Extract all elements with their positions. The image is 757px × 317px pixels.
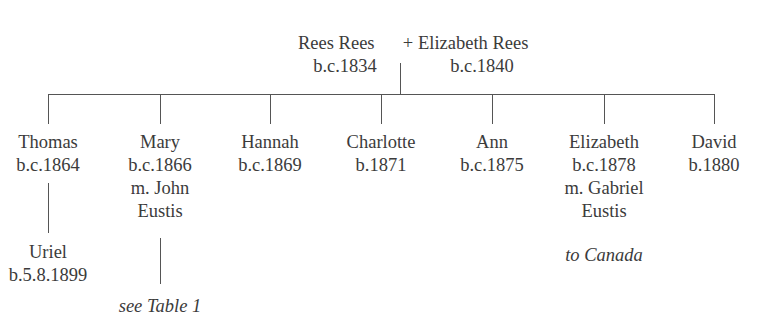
drop-elizabeth [604,94,605,124]
see-table-link: see Table 1 [100,295,220,317]
child-elizabeth-name: Elizabeth [549,131,659,154]
father-born: b.c.1834 [300,55,390,78]
drop-hannah [270,94,271,124]
child-hannah-born: b.c.1869 [220,154,320,177]
child-mary-spouse: Eustis [110,200,210,223]
child-thomas-born: b.c.1864 [0,154,98,177]
drop-ann [492,94,493,124]
child-thomas-name: Thomas [0,131,98,154]
child-david-born: b.1880 [674,154,754,177]
drop-mary [160,94,161,124]
child-mary-born: b.c.1866 [110,154,210,177]
drop-thomas [48,94,49,124]
drop-charlotte [381,94,382,124]
child-david-name: David [674,131,754,154]
father-name: Rees Rees [298,32,410,55]
child-charlotte-name: Charlotte [331,131,431,154]
parent-descent-line [400,63,401,95]
child-elizabeth-spouse: Eustis [549,200,659,223]
child-elizabeth-note: to Canada [544,244,664,267]
mother-born: b.c.1840 [437,55,527,78]
child-elizabeth-born: b.c.1878 [549,154,659,177]
child-ann-name: Ann [442,131,542,154]
child-ann-born: b.c.1875 [442,154,542,177]
child-charlotte-born: b.1871 [331,154,431,177]
child-mary-married: m. John [110,177,210,200]
drop-david [714,94,715,124]
marriage-plus: + [398,32,418,55]
drop-uriel [48,183,49,233]
child-mary-name: Mary [110,131,210,154]
drop-mary-descendants [160,238,161,284]
grandchild-uriel-name: Uriel [0,241,98,264]
child-elizabeth-married: m. Gabriel [549,177,659,200]
mother-name: Elizabeth Rees [418,32,548,55]
child-hannah-name: Hannah [220,131,320,154]
grandchild-uriel-born: b.5.8.1899 [0,264,98,287]
